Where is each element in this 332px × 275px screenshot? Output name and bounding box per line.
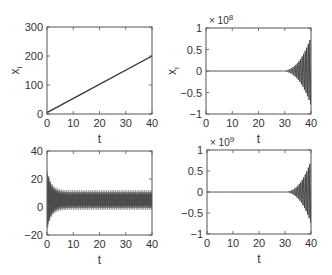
subplot-bottom-left: 010203040−2002040t	[24, 145, 158, 267]
data-line	[47, 56, 152, 113]
y-tick-label: −20	[24, 229, 43, 241]
x-axis-label: t	[98, 132, 102, 146]
x-tick-label: 20	[93, 117, 105, 129]
x-tick-label: 20	[252, 117, 264, 129]
x-tick-label: 20	[253, 237, 265, 249]
x-tick-label: 40	[305, 237, 317, 249]
y-axis-label: xi	[8, 66, 24, 74]
x-tick-label: 10	[67, 117, 79, 129]
y-tick-label: 1	[197, 144, 203, 156]
y-tick-label: −1	[190, 228, 203, 240]
y-tick-label: −0.5	[181, 207, 203, 219]
x-tick-label: 10	[67, 238, 79, 250]
y-tick-label: 0	[37, 108, 43, 120]
x-tick-label: 30	[279, 117, 291, 129]
y-tick-label: 200	[25, 50, 43, 62]
y-tick-label: 100	[25, 79, 43, 91]
x-tick-label: 30	[120, 238, 132, 250]
x-tick-label: 0	[44, 117, 50, 129]
x-tick-label: 10	[226, 117, 238, 129]
figure-2x2-subplots: 0102030400100200300txi010203040−1−0.500.…	[0, 0, 332, 275]
data-line	[206, 40, 311, 104]
y-axis-label: xi	[165, 67, 181, 75]
y-tick-label: 20	[31, 173, 43, 185]
x-axis-label: t	[98, 253, 102, 267]
x-tick-label: 20	[93, 238, 105, 250]
plot-area	[206, 40, 311, 104]
subplot-bottom-right: 010203040−1−0.500.51t× 109	[181, 135, 317, 266]
x-axis-label: t	[257, 132, 261, 146]
x-tick-label: 40	[146, 238, 158, 250]
plot-area	[47, 56, 152, 113]
plot-area	[47, 170, 152, 227]
plot-area	[207, 164, 311, 223]
subplot-top-left: 0102030400100200300txi	[8, 21, 158, 146]
y-tick-label: 0.5	[187, 44, 202, 56]
axis-exponent-label: × 109	[210, 135, 235, 148]
x-tick-label: 40	[146, 117, 158, 129]
y-tick-label: 0	[197, 186, 203, 198]
y-tick-label: 300	[25, 21, 43, 33]
x-tick-label: 40	[305, 117, 317, 129]
data-line	[207, 164, 311, 223]
x-tick-label: 0	[204, 237, 210, 249]
y-tick-label: 0.5	[188, 165, 203, 177]
y-tick-label: −1	[189, 108, 202, 120]
x-tick-label: 30	[279, 237, 291, 249]
x-tick-label: 30	[120, 117, 132, 129]
axes-box	[47, 27, 152, 114]
x-tick-label: 0	[44, 238, 50, 250]
y-tick-label: −0.5	[180, 87, 202, 99]
x-tick-label: 0	[203, 117, 209, 129]
y-tick-label: 1	[196, 22, 202, 34]
y-tick-label: 0	[37, 201, 43, 213]
x-axis-label: t	[257, 252, 261, 266]
y-tick-label: 0	[196, 65, 202, 77]
axis-exponent-label: × 108	[209, 13, 234, 26]
x-tick-label: 10	[227, 237, 239, 249]
y-tick-label: 40	[31, 145, 43, 157]
subplot-top-right: 010203040−1−0.500.51txi× 108	[165, 13, 317, 146]
